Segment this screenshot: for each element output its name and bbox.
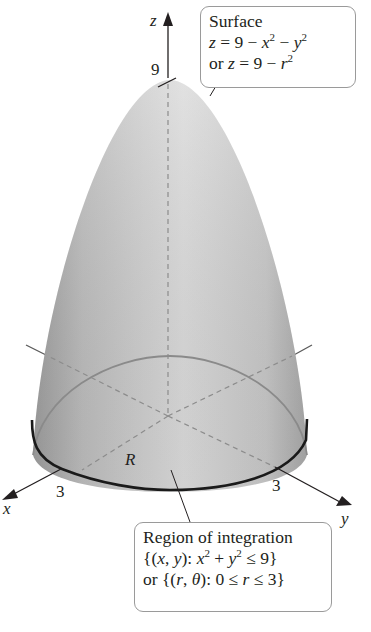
z-tick-label: 9 (151, 61, 160, 78)
surface-equation-cartesian: z = 9 − x2 − y2 (209, 32, 347, 53)
region-set-cartesian: {(x, y): x2 + y2 ≤ 9} (143, 548, 323, 569)
y-tick-label: 3 (272, 477, 281, 494)
x-axis (10, 469, 61, 496)
x-axis-label: x (3, 500, 11, 517)
surface-equation-polar: or z = 9 − r2 (209, 53, 347, 74)
z-axis-label: z (150, 12, 157, 29)
z-axis-arrowhead (163, 12, 173, 26)
surface-callout: Surface z = 9 − x2 − y2 or z = 9 − r2 (200, 6, 356, 88)
y-axis (275, 467, 340, 502)
surface-callout-title: Surface (209, 11, 347, 32)
region-set-polar: or {(r, θ): 0 ≤ r ≤ 3} (143, 569, 323, 590)
x-tick-label: 3 (56, 483, 65, 500)
surface-shading (33, 80, 307, 492)
region-callout-title: Region of integration (143, 527, 323, 548)
region-label-r: R (125, 451, 135, 468)
region-callout: Region of integration {(x, y): x2 + y2 ≤… (134, 522, 332, 612)
y-axis-label: y (341, 510, 349, 527)
